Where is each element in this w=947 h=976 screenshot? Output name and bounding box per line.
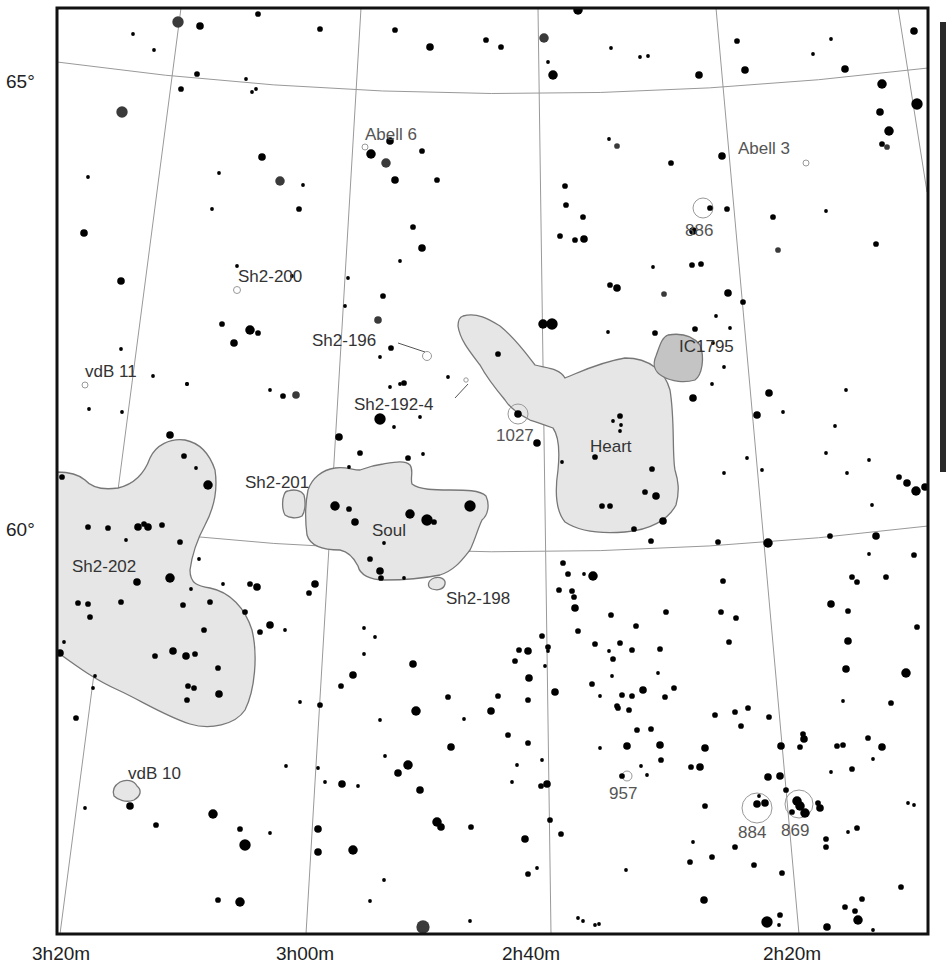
nebulae-layer — [57, 315, 702, 801]
star — [73, 715, 79, 721]
nebula-vdb-10[interactable] — [113, 780, 140, 801]
star — [418, 415, 422, 419]
star — [557, 233, 563, 239]
star — [688, 764, 694, 770]
star — [172, 16, 183, 27]
star — [823, 836, 829, 842]
star — [75, 600, 81, 606]
star — [626, 707, 632, 713]
star — [709, 854, 715, 860]
star — [245, 325, 255, 335]
star — [381, 158, 391, 168]
cluster-884[interactable] — [742, 793, 772, 823]
object-sh2-192-4[interactable] — [464, 378, 468, 382]
star — [859, 896, 865, 902]
star — [165, 573, 175, 583]
star — [306, 590, 312, 596]
star — [498, 44, 504, 50]
star — [208, 809, 218, 819]
star — [546, 318, 557, 329]
star — [712, 712, 718, 718]
star — [317, 702, 323, 708]
star — [645, 773, 649, 777]
star — [247, 581, 253, 587]
star — [268, 831, 272, 835]
star — [468, 919, 472, 923]
star — [888, 700, 894, 706]
star — [728, 326, 732, 330]
star — [827, 600, 835, 608]
star — [710, 382, 714, 386]
star — [824, 451, 828, 455]
star — [642, 489, 648, 495]
star — [254, 87, 258, 91]
star — [85, 601, 91, 607]
star — [180, 602, 186, 608]
star — [181, 453, 187, 459]
star — [464, 500, 475, 511]
star — [845, 608, 851, 614]
star — [800, 808, 810, 818]
star — [753, 411, 761, 419]
star — [255, 11, 261, 17]
star — [258, 153, 266, 161]
object-sh2-200[interactable] — [234, 287, 241, 294]
star — [692, 326, 698, 332]
star — [829, 770, 833, 774]
star — [378, 718, 382, 722]
star — [257, 629, 263, 635]
label-abell-3: Abell 3 — [738, 139, 790, 158]
star — [93, 674, 97, 678]
star — [367, 556, 373, 562]
ra-axis-label: 3h00m — [276, 943, 334, 964]
star — [366, 149, 376, 159]
star — [911, 486, 921, 496]
star — [876, 108, 884, 116]
object-vdb-11[interactable] — [82, 382, 88, 388]
label-869: 869 — [781, 821, 809, 840]
star — [833, 424, 837, 428]
star — [649, 466, 655, 472]
star — [689, 262, 695, 268]
star — [540, 758, 544, 762]
star — [741, 66, 749, 74]
star — [83, 806, 87, 810]
star — [546, 60, 550, 64]
star — [598, 746, 602, 750]
star — [563, 202, 569, 208]
object-abell-6[interactable] — [362, 144, 368, 150]
star — [525, 674, 533, 682]
star — [811, 52, 815, 56]
star — [558, 831, 564, 837]
nebula-heart[interactable] — [458, 315, 678, 533]
star — [410, 224, 416, 230]
star — [159, 522, 165, 528]
object-sh2-196[interactable] — [423, 352, 432, 361]
star — [487, 707, 495, 715]
star — [576, 916, 580, 920]
star — [770, 214, 776, 220]
nebula-sh2-201[interactable] — [283, 490, 305, 518]
star — [691, 840, 695, 844]
star — [547, 817, 553, 823]
star — [219, 321, 225, 327]
star — [392, 425, 396, 429]
star — [841, 65, 849, 73]
star — [244, 77, 248, 81]
star — [514, 410, 522, 418]
nebula-sh2-198[interactable] — [428, 577, 445, 589]
star — [237, 826, 243, 832]
star — [580, 235, 588, 243]
star — [298, 700, 302, 704]
star — [718, 609, 724, 615]
star — [569, 588, 575, 594]
nebula-sh2-202[interactable] — [57, 440, 255, 727]
star — [829, 37, 833, 41]
star — [724, 206, 730, 212]
star — [562, 183, 568, 189]
star — [560, 560, 566, 566]
star — [840, 742, 846, 748]
star — [718, 152, 726, 160]
star — [852, 908, 858, 914]
object-abell-3[interactable] — [803, 160, 809, 166]
